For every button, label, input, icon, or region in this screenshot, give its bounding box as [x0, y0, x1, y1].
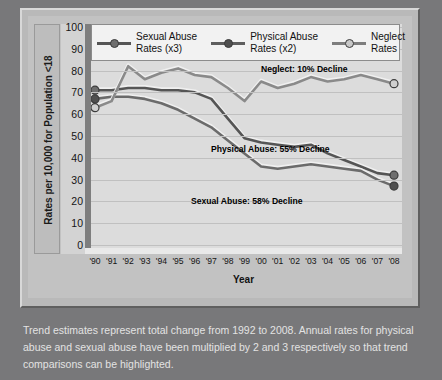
y-axis-tick-label: 90	[61, 44, 83, 54]
x-axis-tick-row: '90'91'92'93'94'95'96'97'98'99'00'01'02'…	[85, 256, 402, 270]
y-axis-title-band: Rates per 10,000 for Population <18	[34, 24, 60, 254]
plot-bottom-bevel	[85, 248, 402, 254]
y-axis-tick-label: 0	[61, 240, 83, 250]
series-endpoint-marker-neglect	[390, 80, 398, 88]
legend-item-physical-abuse: Physical Abuse Rates (x2)	[211, 31, 318, 55]
gridline	[91, 158, 402, 159]
gridline	[91, 114, 402, 115]
legend-label-line1: Sexual Abuse	[136, 31, 197, 42]
gridline	[91, 92, 402, 93]
legend-item-sexual-abuse: Sexual Abuse Rates (x3)	[97, 31, 197, 55]
y-axis-tick-label: 60	[61, 109, 83, 119]
series-endpoint-marker-physical	[91, 95, 99, 103]
y-axis-tick-label: 80	[61, 66, 83, 76]
chart-figure-plate: Rates per 10,000 for Population <18 1009…	[20, 8, 420, 308]
y-axis-tick-label: 30	[61, 175, 83, 185]
annotation-neglect: Neglect: 10% Decline	[261, 64, 347, 74]
gridline	[91, 136, 402, 137]
legend-label-line1: Physical Abuse	[250, 31, 318, 42]
legend-item-neglect: Neglect Rates	[332, 31, 405, 55]
y-axis-tick-column: 1009080706050403020100	[61, 24, 85, 254]
series-endpoint-marker-physical	[390, 182, 398, 190]
series-line-physical	[95, 97, 394, 186]
y-axis-tick-label: 10	[61, 218, 83, 228]
y-axis-tick-label: 40	[61, 153, 83, 163]
series-endpoint-marker-sexual	[91, 86, 99, 94]
y-axis-title: Rates per 10,000 for Population <18	[35, 25, 61, 255]
gridline	[91, 223, 402, 224]
x-axis-title: Year	[85, 274, 402, 285]
chart-legend: Sexual Abuse Rates (x3) Physical Abuse R…	[91, 24, 400, 61]
figure-caption: Trend estimates represent total change f…	[23, 322, 423, 373]
y-axis-tick-label: 20	[61, 196, 83, 206]
series-line-highlight-physical	[95, 96, 394, 185]
series-endpoint-marker-sexual	[390, 171, 398, 179]
y-axis-tick-label: 100	[61, 22, 83, 32]
gridline	[91, 71, 402, 72]
legend-label-line1: Neglect	[371, 31, 405, 42]
legend-label-physical-abuse: Physical Abuse Rates (x2)	[250, 31, 318, 55]
legend-label-neglect: Neglect Rates	[371, 31, 405, 55]
annotation-physical: Physical Abuse: 55% Decline	[211, 144, 330, 154]
legend-label-line2: Rates	[371, 43, 397, 54]
legend-marker-icon-sexual-abuse	[97, 37, 131, 49]
legend-label-sexual-abuse: Sexual Abuse Rates (x3)	[136, 31, 197, 55]
annotation-sexual: Sexual Abuse: 58% Decline	[191, 196, 302, 206]
legend-marker-icon-physical-abuse	[211, 37, 245, 49]
gridline	[91, 180, 402, 181]
gridline	[91, 245, 402, 246]
legend-marker-icon-neglect	[332, 37, 366, 49]
legend-label-line2: Rates (x2)	[250, 43, 296, 54]
y-axis-tick-label: 70	[61, 87, 83, 97]
series-endpoint-marker-neglect	[91, 104, 99, 112]
x-axis-tick-label: '08	[384, 256, 404, 266]
y-axis-tick-label: 50	[61, 131, 83, 141]
legend-label-line2: Rates (x3)	[136, 43, 182, 54]
